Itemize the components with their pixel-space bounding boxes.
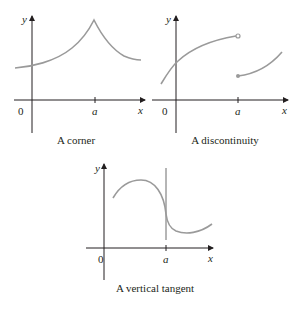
corner-curve [15, 20, 141, 68]
panel-vertical-tangent: y 0 a x A vertical tangent [86, 162, 213, 294]
panel-corner: y 0 a x A corner [14, 13, 145, 146]
right-branch-curve [238, 52, 282, 76]
left-branch-curve [161, 36, 236, 84]
caption-corner: A corner [57, 134, 96, 146]
x-axis-label: x [137, 104, 143, 116]
filled-dot-endpoint [236, 74, 240, 78]
tick-a-label: a [235, 105, 241, 117]
open-circle-endpoint [236, 34, 240, 38]
y-axis-label: y [165, 13, 171, 25]
panel-discontinuity: y 0 a x A discontinuity [152, 13, 288, 146]
y-axis-label: y [94, 162, 100, 174]
origin-label: 0 [98, 253, 104, 265]
caption-vertical-tangent: A vertical tangent [116, 282, 194, 294]
x-axis-label: x [207, 252, 213, 264]
x-axis-label: x [281, 104, 287, 116]
tick-a-label: a [92, 105, 98, 117]
tick-a-label: a [163, 253, 169, 265]
figure: y 0 a x A corner y 0 a x A discontinuity… [0, 0, 302, 316]
origin-label: 0 [18, 105, 24, 117]
caption-discontinuity: A discontinuity [191, 134, 259, 146]
y-axis-label: y [21, 13, 27, 25]
vertical-tangent-curve [113, 180, 212, 233]
origin-label: 0 [162, 105, 168, 117]
